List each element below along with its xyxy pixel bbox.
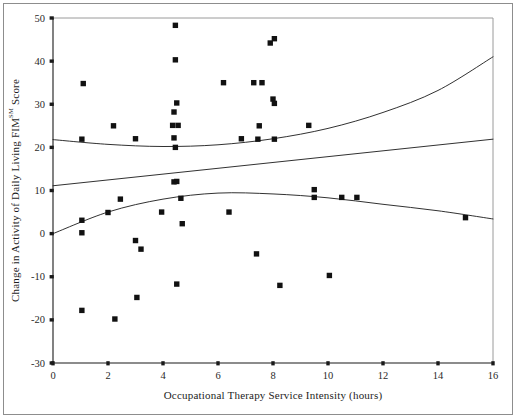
middle-linear-line [53, 139, 493, 186]
y-axis-title-text: Change in Activity of Daily Living FIMSM… [6, 79, 21, 302]
data-point [174, 281, 179, 286]
y-tick-mark [50, 59, 54, 62]
data-point [79, 136, 84, 141]
data-point [312, 187, 317, 192]
x-tick-label: 4 [160, 370, 166, 381]
x-tick-mark [381, 361, 384, 365]
data-point [226, 209, 231, 214]
data-point [463, 215, 468, 220]
y-axis-title: Change in Activity of Daily Living FIMSM… [6, 79, 21, 302]
data-point [312, 195, 317, 200]
data-point [255, 136, 260, 141]
data-point [111, 123, 116, 128]
y-tick-mark [50, 146, 54, 149]
y-tick-label: -20 [31, 314, 45, 325]
x-tick-label: 0 [50, 370, 55, 381]
y-tick-label: 40 [35, 56, 46, 67]
data-point [173, 57, 178, 62]
data-point [174, 100, 179, 105]
data-point [134, 295, 139, 300]
plot-frame [53, 18, 493, 363]
x-tick-label: 14 [433, 370, 444, 381]
data-point-group [79, 23, 468, 322]
x-tick-mark [161, 361, 164, 365]
x-tick-label: 10 [323, 370, 334, 381]
x-tick-mark [106, 361, 109, 365]
data-point [159, 209, 164, 214]
data-point [133, 136, 138, 141]
x-tick-mark [326, 361, 329, 365]
scatter-plot-canvas: 50403020100-10-20-30 0246810121416 Occup… [0, 0, 516, 418]
x-tick-mark [51, 361, 54, 365]
y-axis-title-superscript: SM [6, 108, 13, 118]
y-tick-label: 50 [35, 13, 46, 24]
data-point [79, 308, 84, 313]
x-axis: 0246810121416 [50, 361, 498, 381]
x-tick-mark [491, 361, 494, 365]
data-point [221, 80, 226, 85]
data-point [277, 283, 282, 288]
data-point [105, 210, 110, 215]
trend-curve-group [53, 57, 493, 234]
data-point [79, 230, 84, 235]
y-axis-title-main: Change in Activity of Daily Living FIM [9, 118, 21, 302]
data-point [257, 123, 262, 128]
data-point [138, 246, 143, 251]
data-point [339, 195, 344, 200]
data-point [118, 196, 123, 201]
data-point [259, 80, 264, 85]
data-point [239, 136, 244, 141]
chart-figure: 50403020100-10-20-30 0246810121416 Occup… [0, 0, 516, 418]
y-tick-label: 10 [35, 185, 46, 196]
data-point [170, 123, 175, 128]
y-tick-mark [50, 275, 54, 278]
data-point [327, 273, 332, 278]
y-tick-label: -30 [31, 358, 45, 369]
y-tick-mark [50, 16, 54, 19]
data-point [354, 195, 359, 200]
x-tick-mark [271, 361, 274, 365]
data-point [178, 196, 183, 201]
data-point [254, 251, 259, 256]
y-tick-label: 0 [40, 228, 45, 239]
x-tick-label: 16 [488, 370, 499, 381]
data-point [173, 145, 178, 150]
data-point [133, 238, 138, 243]
x-tick-mark [436, 361, 439, 365]
data-point [251, 80, 256, 85]
y-axis-tick-labels: 50403020100-10-20-30 [31, 13, 45, 369]
data-point [272, 136, 277, 141]
data-point [272, 36, 277, 41]
data-point [171, 109, 176, 114]
data-point [173, 23, 178, 28]
y-tick-mark [50, 318, 54, 321]
x-axis-tick-labels: 0246810121416 [50, 370, 498, 381]
data-point [171, 135, 176, 140]
x-tick-label: 6 [215, 370, 220, 381]
data-point [112, 316, 117, 321]
y-tick-label: -10 [31, 271, 45, 282]
data-point [79, 218, 84, 223]
data-point [180, 221, 185, 226]
data-point [175, 123, 180, 128]
x-tick-label: 12 [378, 370, 389, 381]
x-axis-title: Occupational Therapy Service Intensity (… [164, 389, 383, 402]
x-tick-label: 2 [105, 370, 110, 381]
y-tick-mark [50, 189, 54, 192]
data-point [81, 81, 86, 86]
y-tick-label: 20 [35, 142, 46, 153]
y-tick-label: 30 [35, 99, 46, 110]
y-tick-mark [50, 103, 54, 106]
y-axis-title-suffix: Score [9, 79, 21, 108]
y-axis: 50403020100-10-20-30 [31, 13, 54, 369]
data-point [174, 179, 179, 184]
data-point [272, 101, 277, 106]
x-tick-label: 8 [270, 370, 275, 381]
x-tick-mark [216, 361, 219, 365]
data-point [306, 123, 311, 128]
